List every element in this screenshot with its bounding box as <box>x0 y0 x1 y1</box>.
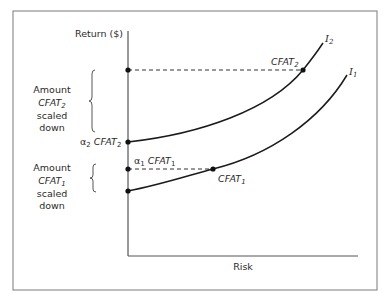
figure-frame <box>13 11 377 290</box>
y-axis-label: Return ($) <box>75 28 123 40</box>
upper-brace <box>89 70 95 132</box>
cfat2-point <box>300 67 305 72</box>
upper-annotation-line2: CFAT2 <box>38 97 66 109</box>
cfat1-label: CFAT1 <box>218 173 246 185</box>
lower-annotation-line1: Amount <box>33 162 70 174</box>
alpha2-cfat2-label: α2 CFAT2 <box>80 136 121 148</box>
cfat2-label: CFAT2 <box>271 56 299 68</box>
alpha2-cfat2-point <box>125 139 130 144</box>
alpha1-cfat1-point <box>125 166 130 171</box>
i1-intercept-point <box>125 188 130 193</box>
lower-annotation-line2: CFAT1 <box>38 175 66 187</box>
cfat2-axis-point <box>125 67 130 72</box>
upper-annotation-line1: Amount <box>33 84 70 96</box>
lower-annotation-line4: down <box>39 200 65 212</box>
curve-i2-label: I2 <box>325 33 333 45</box>
upper-annotation-line3: scaled <box>37 110 68 122</box>
alpha1-cfat1-label: α1 CFAT1 <box>134 155 175 167</box>
x-axis-label: Risk <box>233 261 253 273</box>
lower-brace <box>90 164 96 192</box>
lower-annotation-line3: scaled <box>37 188 68 200</box>
cfat1-point <box>210 166 215 171</box>
upper-annotation-line4: down <box>39 122 65 134</box>
curve-i1-label: I1 <box>349 66 357 78</box>
